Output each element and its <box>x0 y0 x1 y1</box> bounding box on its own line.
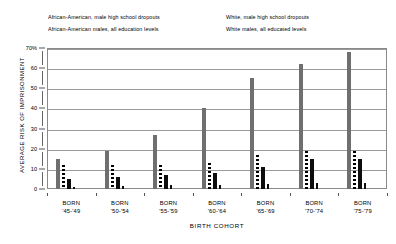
bar-african-american-dropouts <box>56 159 60 189</box>
y-axis-spine-dash <box>42 111 43 125</box>
y-tick-label: 60 <box>31 65 37 71</box>
x-tick-label-line1: BORN <box>193 199 242 207</box>
legend-label: White males, all educated levels <box>226 26 306 32</box>
y-tick-mark <box>39 148 45 149</box>
y-axis-spine-dash <box>42 51 43 65</box>
x-axis-title: BIRTH COHORT <box>47 222 387 229</box>
x-tick-label-line1: BORN <box>290 199 339 207</box>
x-tick-label-line2: '65-'69 <box>241 207 290 215</box>
y-axis-spine-dash <box>42 91 43 105</box>
legend-label: African-American males, all education le… <box>48 26 159 32</box>
bar-white-all <box>316 183 318 189</box>
y-axis-spine-dash <box>42 152 43 166</box>
y-axis-labels: 010203040506070% <box>0 48 47 189</box>
y-tick-mark <box>39 88 45 89</box>
legend-item-white-all: White males, all educated levels <box>200 19 306 39</box>
bar-groups <box>47 48 387 189</box>
y-tick-label: 20 <box>31 146 37 152</box>
x-tick-label-line2: '60-'64 <box>193 207 242 215</box>
bar-white-dropouts <box>310 159 314 189</box>
x-tick-mark <box>144 193 145 196</box>
x-tick-mark <box>47 193 48 196</box>
x-tick-mark <box>96 193 97 196</box>
bar-african-american-dropouts <box>202 108 206 189</box>
y-axis-spine-dash <box>42 132 43 146</box>
bar-white-all <box>267 184 269 189</box>
bar-white-all <box>170 185 172 189</box>
bar-african-american-dropouts <box>153 135 157 189</box>
bar-african-american-all <box>62 165 65 189</box>
y-tick-label: 50 <box>31 85 37 91</box>
bar-white-dropouts <box>67 179 71 189</box>
bar-white-dropouts <box>164 175 168 189</box>
y-tick-label: 70% <box>26 45 37 51</box>
bar-group <box>96 48 145 189</box>
y-tick-mark <box>39 168 45 169</box>
bar-african-american-all <box>208 163 211 189</box>
bar-white-dropouts <box>358 159 362 189</box>
solid-line-swatch-icon <box>200 19 220 39</box>
bar-set <box>338 48 396 189</box>
x-tick-label-line2: '75-'79 <box>338 207 387 215</box>
chart-legend: African-American, male high school dropo… <box>0 2 396 32</box>
x-tick-label: BORN'45-'49 <box>47 199 96 216</box>
bar-african-american-dropouts <box>105 151 109 189</box>
x-tick-label: BORN'70-'74 <box>290 199 339 216</box>
bar-group <box>241 48 290 189</box>
x-tick-label: BORN'75-'79 <box>338 199 387 216</box>
y-tick-label: 10 <box>31 166 37 172</box>
legend-item-aa-all: African-American males, all education le… <box>22 19 159 39</box>
bar-african-american-all <box>256 155 259 189</box>
x-tick-label: BORN'60-'64 <box>193 199 242 216</box>
y-axis-spine-dash <box>42 71 43 85</box>
bar-group <box>144 48 193 189</box>
bar-white-all <box>219 185 221 189</box>
y-tick-mark <box>39 189 45 190</box>
bar-group <box>338 48 387 189</box>
bar-white-dropouts <box>261 167 265 189</box>
bar-white-all <box>364 183 366 189</box>
x-tick-mark <box>387 193 388 196</box>
dotted-line-swatch-icon <box>22 19 42 39</box>
y-axis-spine-dash <box>42 172 43 186</box>
bar-group <box>47 48 96 189</box>
x-tick-label: BORN'65-'69 <box>241 199 290 216</box>
x-tick-label-line2: '50-'54 <box>96 207 145 215</box>
y-tick-label: 0 <box>34 186 37 192</box>
y-tick-label: 40 <box>31 105 37 111</box>
bar-african-american-all <box>111 165 114 189</box>
x-tick-label-line2: '45-'49 <box>47 207 96 215</box>
x-tick-label: BORN'55-'59 <box>144 199 193 216</box>
bar-african-american-dropouts <box>347 52 351 189</box>
x-tick-label: BORN'50-'54 <box>96 199 145 216</box>
bar-african-american-all <box>305 151 308 189</box>
x-tick-label-line1: BORN <box>144 199 193 207</box>
bar-white-dropouts <box>213 173 217 189</box>
x-tick-label-line2: '55-'59 <box>144 207 193 215</box>
imprisonment-risk-chart: African-American, male high school dropo… <box>0 0 396 244</box>
bar-group <box>290 48 339 189</box>
x-tick-mark <box>193 193 194 196</box>
x-axis-labels: BORN'45-'49BORN'50-'54BORN'55-'59BORN'60… <box>47 193 387 219</box>
x-tick-label-line2: '70-'74 <box>290 207 339 215</box>
x-tick-mark <box>290 193 291 196</box>
y-tick-mark <box>39 128 45 129</box>
bar-group <box>193 48 242 189</box>
y-tick-mark <box>39 68 45 69</box>
bar-african-american-all <box>353 151 356 189</box>
bar-white-all <box>122 186 124 189</box>
y-tick-label: 30 <box>31 126 37 132</box>
x-tick-mark <box>338 193 339 196</box>
x-tick-label-line1: BORN <box>241 199 290 207</box>
x-tick-mark <box>241 193 242 196</box>
y-tick-mark <box>39 108 45 109</box>
x-tick-label-line1: BORN <box>338 199 387 207</box>
bar-white-all <box>73 187 75 189</box>
bar-white-dropouts <box>116 177 120 189</box>
bar-african-american-dropouts <box>250 78 254 189</box>
bar-african-american-dropouts <box>299 64 303 189</box>
bar-african-american-all <box>159 165 162 189</box>
x-tick-label-line1: BORN <box>47 199 96 207</box>
x-tick-label-line1: BORN <box>96 199 145 207</box>
y-tick-mark <box>39 48 45 49</box>
